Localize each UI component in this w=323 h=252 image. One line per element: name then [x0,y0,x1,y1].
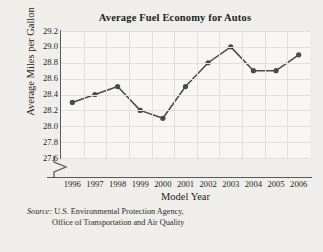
y-axis-tick-label: 28.4 [18,90,58,99]
gridline-vertical [129,31,130,158]
chart-title: Average Fuel Economy for Autos [60,12,290,23]
source-line-2: Office of Transportation and Air Quality [52,217,184,228]
x-axis-tick-label: 2006 [279,180,319,189]
data-point-marker [70,100,75,105]
gridline-vertical [84,31,85,158]
gridline-vertical [197,31,198,158]
gridline-horizontal [61,110,310,111]
data-point-marker [183,84,188,89]
gridline-horizontal [61,126,310,127]
data-point-marker [160,116,165,121]
y-axis-tick-label: 28.6 [18,74,58,83]
y-axis-tick-label: 28.8 [18,58,58,67]
y-axis-tick-label: 28.0 [18,122,58,131]
source-label: Source: [27,207,52,216]
gridline-horizontal [61,158,310,159]
data-point-marker [251,68,256,73]
gridline-vertical [265,31,266,158]
source-note: Source: U.S. Environmental Protection Ag… [27,206,184,228]
gridline-vertical [242,31,243,158]
gridline-vertical [106,31,107,158]
data-point-marker [273,68,278,73]
y-axis-tick-label: 28.2 [18,106,58,115]
gridline-horizontal [61,79,310,80]
y-axis-line [60,30,61,159]
y-axis-tick-label: 29.2 [18,27,58,36]
plot-area [61,31,310,158]
source-line-1: U.S. Environmental Protection Agency, [54,207,184,216]
gridline-vertical [152,31,153,158]
x-axis-title: Model Year [61,191,310,202]
chart-figure: Average Fuel Economy for Autos Average M… [0,0,323,252]
gridline-horizontal [61,142,310,143]
gridline-vertical [174,31,175,158]
y-axis-tick-label: 29.0 [18,42,58,51]
data-point-marker [115,84,120,89]
gridline-vertical [219,31,220,158]
data-point-marker [296,52,301,57]
gridline-horizontal [61,47,310,48]
y-axis-tick-label: 27.6 [18,154,58,163]
gridline-vertical [287,31,288,158]
gridline-horizontal [61,63,310,64]
y-axis-tick-label: 27.8 [18,138,58,147]
gridline-horizontal [61,31,310,32]
gridline-horizontal [61,95,310,96]
